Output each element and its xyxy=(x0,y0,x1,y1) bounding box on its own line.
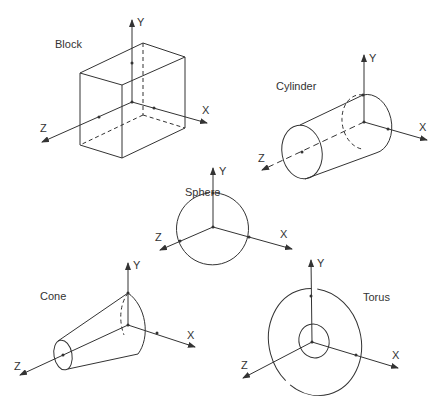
torus-shape xyxy=(243,260,398,406)
sphere-y-label: Y xyxy=(219,165,226,177)
cylinder-label: Cylinder xyxy=(276,80,316,92)
sphere-x-label: X xyxy=(280,228,287,240)
cylinder-z-label: Z xyxy=(258,152,265,164)
sphere-shape xyxy=(160,168,292,265)
block-z-label: Z xyxy=(40,122,47,134)
cylinder-shape xyxy=(262,55,427,182)
torus-x-label: X xyxy=(392,349,399,361)
torus-label: Torus xyxy=(363,291,390,303)
cylinder-y-label: Y xyxy=(369,52,376,64)
cone-z-label: Z xyxy=(14,360,21,372)
cylinder-x-label: X xyxy=(419,121,426,133)
block-label: Block xyxy=(55,38,82,50)
sphere-z-label: Z xyxy=(155,231,162,243)
cone-label: Cone xyxy=(40,290,66,302)
block-x-label: X xyxy=(202,104,209,116)
cone-shape xyxy=(20,263,195,375)
cone-y-label: Y xyxy=(133,259,140,271)
cone-x-label: X xyxy=(187,329,194,341)
torus-z-label: Z xyxy=(241,359,248,371)
sphere-label: Sphere xyxy=(185,186,220,198)
torus-y-label: Y xyxy=(317,257,324,269)
block-y-label: Y xyxy=(137,16,144,28)
